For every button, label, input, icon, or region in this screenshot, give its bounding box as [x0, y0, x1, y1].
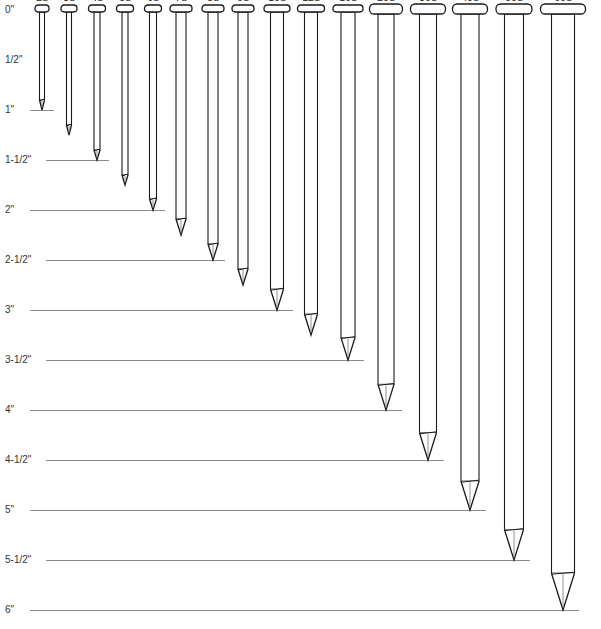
- nail-shank: [461, 14, 479, 481]
- ruler-label: 1": [5, 105, 14, 115]
- nail-size-label-20d: 20d: [366, 0, 406, 3]
- nail-2d: [35, 5, 49, 110]
- ruler-label: 1-1/2": [5, 155, 31, 165]
- nail-head: [298, 5, 325, 12]
- nail-shank: [552, 14, 575, 573]
- nail-head: [453, 4, 488, 14]
- nail-size-diagram: 0"1/2"1"1-1/2"2"2-1/2"3"3-1/2"4"4-1/2"5"…: [0, 0, 601, 629]
- nail-shank: [40, 12, 45, 100]
- nail-7d: [170, 5, 192, 235]
- nail-size-label-30d: 30d: [408, 0, 448, 3]
- ruler-label: 2-1/2": [5, 255, 31, 265]
- nail-shank: [305, 12, 318, 314]
- nail-30d: [411, 4, 446, 460]
- nail-head: [264, 5, 290, 12]
- ruler-label: 3": [5, 305, 14, 315]
- nail-12d: [298, 5, 325, 335]
- ruler-label: 3-1/2": [5, 355, 31, 365]
- nail-shank: [176, 12, 186, 219]
- nail-8d: [202, 5, 224, 260]
- ruler-label: 6": [5, 605, 14, 615]
- nail-shank: [271, 12, 284, 289]
- ruler-label: 4": [5, 405, 14, 415]
- nail-drawing-canvas: [0, 0, 601, 629]
- nail-shank: [122, 12, 128, 175]
- nail-9d: [232, 5, 254, 285]
- nail-head: [202, 5, 224, 12]
- nail-head: [496, 4, 532, 14]
- nail-shank: [505, 14, 524, 530]
- ruler-label: 4-1/2": [5, 455, 31, 465]
- nail-head: [333, 5, 363, 12]
- nail-shank: [378, 14, 394, 384]
- ruler-label: 0": [5, 5, 14, 15]
- nail-shank: [420, 14, 437, 433]
- nail-head: [61, 5, 77, 12]
- nail-6d: [145, 5, 162, 210]
- nail-shank: [238, 12, 248, 269]
- nail-size-label-12d: 12d: [291, 0, 331, 3]
- nail-10d: [264, 5, 290, 310]
- nail-head: [232, 5, 254, 12]
- nail-head: [411, 4, 446, 14]
- nail-shank: [94, 12, 100, 150]
- ruler-label: 5-1/2": [5, 555, 31, 565]
- nail-head: [541, 4, 586, 14]
- nail-head: [145, 5, 162, 12]
- nail-60d: [541, 4, 586, 610]
- nail-shank: [208, 12, 218, 244]
- nail-50d: [496, 4, 532, 560]
- nail-head: [170, 5, 192, 12]
- nail-3d: [61, 5, 77, 135]
- nail-size-label-60d: 60d: [543, 0, 583, 3]
- nail-20d: [370, 4, 403, 410]
- nail-size-label-50d: 50d: [494, 0, 534, 3]
- nail-shank: [341, 12, 355, 338]
- ruler-label: 1/2": [5, 55, 22, 65]
- ruler-label: 5": [5, 505, 14, 515]
- nail-16d: [333, 5, 363, 360]
- nail-shank: [150, 12, 157, 199]
- nail-head: [117, 5, 134, 12]
- nail-head: [370, 4, 403, 14]
- nail-head: [35, 5, 49, 12]
- nail-size-label-40d: 40d: [450, 0, 490, 3]
- nail-4d: [89, 5, 106, 160]
- nail-head: [89, 5, 106, 12]
- nail-40d: [453, 4, 488, 510]
- nail-5d: [117, 5, 134, 185]
- nail-shank: [67, 12, 72, 125]
- ruler-label: 2": [5, 205, 14, 215]
- nail-size-label-16d: 16d: [328, 0, 368, 3]
